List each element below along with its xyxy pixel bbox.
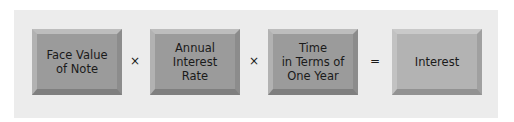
term-face-value-of-note: Face Value of Note <box>32 29 122 95</box>
equals-operator: = <box>368 54 382 68</box>
term-label: Face Value of Note <box>46 48 107 76</box>
term-annual-interest-rate: Annual Interest Rate <box>150 29 240 95</box>
multiply-operator: × <box>128 54 142 68</box>
term-label: Time in Terms of One Year <box>282 41 345 83</box>
result-label: Interest <box>415 55 459 69</box>
result-interest: Interest <box>392 29 482 95</box>
term-time-in-terms-of-one-year: Time in Terms of One Year <box>268 29 358 95</box>
term-label: Annual Interest Rate <box>173 41 217 83</box>
multiply-operator: × <box>247 54 261 68</box>
